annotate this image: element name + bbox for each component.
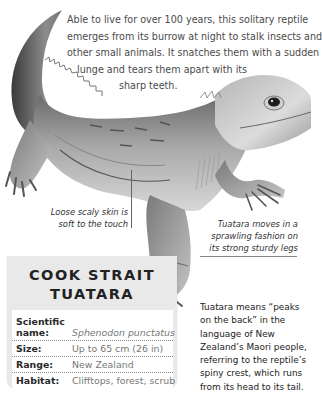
caption-line: soft to the touch: [42, 218, 128, 230]
side-note: Tuatara means “peaks on the back” in the…: [200, 301, 310, 394]
caption-line: its strong sturdy legs: [208, 242, 298, 254]
intro-paragraph: Able to live for over 100 years, this so…: [64, 12, 304, 95]
fact-value: Sphenodon punctatus: [72, 327, 175, 338]
fact-value: Up to 65 cm (26 in): [72, 343, 163, 354]
side-note-line: from its head to its tail.: [200, 381, 310, 394]
fact-value: New Zealand: [72, 359, 134, 370]
fact-label: Habitat:: [16, 375, 72, 386]
side-note-line: spiny crest, which runs: [200, 367, 310, 380]
caption-line: sprawling fashion on: [208, 230, 298, 242]
fact-table: Scientific name: Sphenodon punctatus Siz…: [12, 310, 173, 392]
fact-label-line: name:: [16, 327, 72, 338]
fact-label: Size:: [16, 343, 72, 354]
intro-line: emerges from its burrow at night to stal…: [64, 29, 304, 46]
side-note-line: Tuatara means “peaks: [200, 301, 310, 314]
title-line: TUATARA: [7, 285, 177, 304]
fact-label: Range:: [16, 359, 72, 370]
caption-line: Tuatara moves in a: [208, 218, 298, 230]
intro-line: sharp teeth.: [64, 78, 304, 95]
side-note-line: Zealand’s Maori people,: [200, 341, 310, 354]
fact-value: Clifftops, forest, scrub: [72, 375, 175, 386]
leader-line-skin: [131, 170, 132, 228]
title-line: COOK STRAIT: [7, 266, 177, 285]
side-note-line: on the back” in the: [200, 314, 310, 327]
caption-line: Loose scaly skin is: [42, 206, 128, 218]
caption-skin: Loose scaly skin is soft to the touch: [42, 206, 128, 230]
caption-legs: Tuatara moves in a sprawling fashion on …: [208, 218, 298, 254]
side-note-line: language of New: [200, 328, 310, 341]
fact-box: COOK STRAIT TUATARA Scientific name: Sph…: [7, 256, 177, 387]
fact-row-habitat: Habitat: Clifftops, forest, scrub: [12, 373, 173, 388]
fact-row-size: Size: Up to 65 cm (26 in): [12, 341, 173, 357]
side-note-line: referring to the reptile’s: [200, 354, 310, 367]
fact-box-title: COOK STRAIT TUATARA: [7, 256, 177, 304]
intro-line: other small animals. It snatches them wi…: [64, 45, 304, 62]
fact-label-line: Scientific: [16, 316, 72, 327]
intro-line: Able to live for over 100 years, this so…: [64, 12, 304, 29]
fact-row-range: Range: New Zealand: [12, 357, 173, 373]
intro-line: lunge and tears them apart with its: [64, 62, 304, 79]
fact-row-scientific-name: Scientific name: Sphenodon punctatus: [12, 314, 173, 341]
leader-line-legs: [200, 256, 297, 257]
fact-label: Scientific name:: [16, 316, 72, 338]
